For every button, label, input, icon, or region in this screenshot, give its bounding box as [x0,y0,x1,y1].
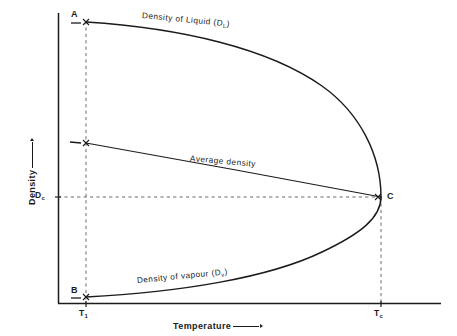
x-tick-label-tc: Tc [374,309,383,318]
point-label-c: C [387,192,394,201]
y-axis-arrow-head-icon [30,138,34,141]
curve-label-liquid-subscript: L [223,23,227,29]
x-tick-label-t1-base: T [79,308,85,318]
x-axis-arrow-head-icon [260,324,263,328]
x-axis-title-text: Temperature [173,321,231,331]
x-tick-label-tc-base: T [374,308,380,318]
y-axis-title: Density [28,138,37,205]
vapour-density-curve [86,197,381,297]
point-label-a: A [71,10,78,19]
x-tick-label-t1: T1 [79,309,88,318]
average-density-line [86,143,381,197]
y-axis-title-text: Density [27,170,37,205]
x-axis-title: Temperature [173,322,263,331]
point-label-b: B [71,286,78,295]
x-axis-arrow-shaft [233,326,259,327]
x-tick-label-t1-subscript: 1 [85,313,89,319]
liquid-density-curve [86,22,381,197]
y-axis-arrow-shaft [32,142,33,168]
tick-dash-m [70,142,81,143]
density-temperature-figure: A B C Density of Liquid (DL) Average den… [0,0,457,336]
plot-canvas [0,0,457,336]
curve-label-vapour-subscript: v [221,272,225,278]
x-tick-label-tc-subscript: c [380,313,384,319]
y-tick-label-dc-subscript: c [42,195,46,201]
